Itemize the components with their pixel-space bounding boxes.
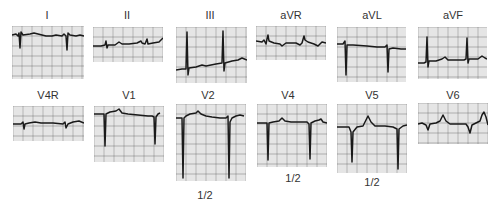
lead-label-avr: aVR — [280, 10, 301, 21]
lead-label-v4: V4 — [281, 90, 294, 101]
ecg-strip-i — [12, 26, 84, 79]
lead-label-v6: V6 — [446, 90, 459, 101]
lead-label-avf: aVF — [443, 10, 463, 21]
ecg-strip-v6 — [418, 103, 488, 144]
ecg-strip-v5 — [337, 104, 407, 173]
ecg-strip-ii — [93, 27, 163, 62]
lead-label-v5: V5 — [365, 90, 378, 101]
scale-note-v2: 1/2 — [197, 190, 212, 201]
lead-label-iii: III — [205, 10, 214, 21]
lead-label-avl: aVL — [362, 10, 382, 21]
ecg-strip-avr — [256, 26, 326, 60]
ecg-strip-v4 — [257, 104, 327, 167]
ecg-strip-v4r — [13, 106, 84, 141]
scale-note-v5: 1/2 — [364, 177, 379, 188]
lead-label-ii: II — [124, 10, 130, 21]
ecg-strip-avf — [418, 27, 487, 79]
lead-label-i: I — [45, 10, 48, 21]
ecg-strip-v2 — [176, 104, 246, 181]
ecg-strip-iii — [176, 27, 247, 83]
lead-label-v2: V2 — [201, 90, 214, 101]
ecg-strip-v1 — [94, 106, 164, 162]
scale-note-v4: 1/2 — [285, 173, 300, 184]
lead-label-v1: V1 — [122, 90, 135, 101]
lead-label-v4r: V4R — [37, 90, 58, 101]
ecg-strip-avl — [337, 27, 406, 82]
